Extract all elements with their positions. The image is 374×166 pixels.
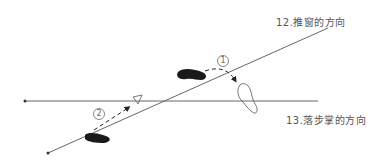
solid-footprint-lower-icon	[85, 133, 110, 143]
step-2-badge: 2	[93, 108, 105, 120]
step-1-badge: 1	[217, 55, 229, 67]
outline-footprint-left-icon	[133, 95, 142, 104]
label-push-window-direction: 12.推窗的方向	[276, 14, 346, 29]
label-push-hand-direction: 13.落步掌的方向	[286, 112, 366, 127]
step-1-arrow	[205, 69, 235, 80]
diagram-canvas: 12.推窗的方向 13.落步掌的方向 1 2	[0, 0, 374, 166]
solid-footprint-upper-icon	[177, 69, 206, 80]
outline-footprint-right-icon	[238, 84, 257, 114]
